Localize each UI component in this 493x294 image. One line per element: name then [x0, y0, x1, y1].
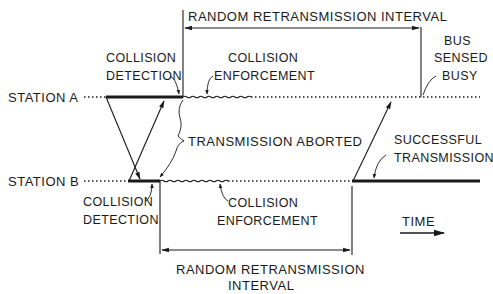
- collision-enforcement-a-signal: [183, 96, 251, 98]
- bus-sensed-busy-line2: SENSED: [434, 51, 488, 65]
- collision-enforcement-a-line1: COLLISION: [228, 51, 298, 65]
- transmission-aborted-brace: [160, 100, 184, 177]
- station-b-label: STATION B: [8, 174, 79, 189]
- collision-enforcement-b-line1: COLLISION: [228, 196, 298, 210]
- collision-enforcement-a-leader: [207, 76, 213, 94]
- bottom-interval-label-line1: RANDOM RETRANSMISSION: [176, 262, 365, 277]
- collision-enforcement-b-leader: [220, 184, 228, 201]
- top-interval-label: RANDOM RETRANSMISSION INTERVAL: [188, 9, 447, 24]
- station-b-timeline: [84, 180, 480, 182]
- bus-sensed-busy-leader: [423, 76, 436, 95]
- collision-detection-a-line1: COLLISION: [106, 51, 176, 65]
- collision-detection-b-line1: COLLISION: [83, 195, 153, 209]
- successful-transmission-line2: TRANSMISSION: [394, 151, 493, 165]
- collision-timing-diagram: STATION A STATION B RANDOM RETRANSMISSIO…: [0, 0, 493, 294]
- successful-transmission-leader: [374, 155, 386, 178]
- transmission-aborted-label: TRANSMISSION ABORTED: [188, 134, 362, 149]
- station-a-label: STATION A: [8, 90, 78, 105]
- propagation-b-to-a-arrow: [129, 101, 164, 181]
- bottom-interval-label-line2: INTERVAL: [228, 278, 294, 293]
- successful-transmission-line1: SUCCESSFUL: [394, 133, 482, 147]
- collision-detection-b-line2: DETECTION: [83, 213, 159, 227]
- collision-enforcement-b-line2: ENFORCEMENT: [217, 214, 318, 228]
- collision-enforcement-a-line2: ENFORCEMENT: [214, 69, 315, 83]
- collision-enforcement-b-signal: [160, 180, 228, 182]
- time-label: TIME: [402, 214, 435, 229]
- bus-sensed-busy-line1: BUS: [444, 34, 471, 48]
- bus-sensed-busy-line3: BUSY: [442, 69, 478, 83]
